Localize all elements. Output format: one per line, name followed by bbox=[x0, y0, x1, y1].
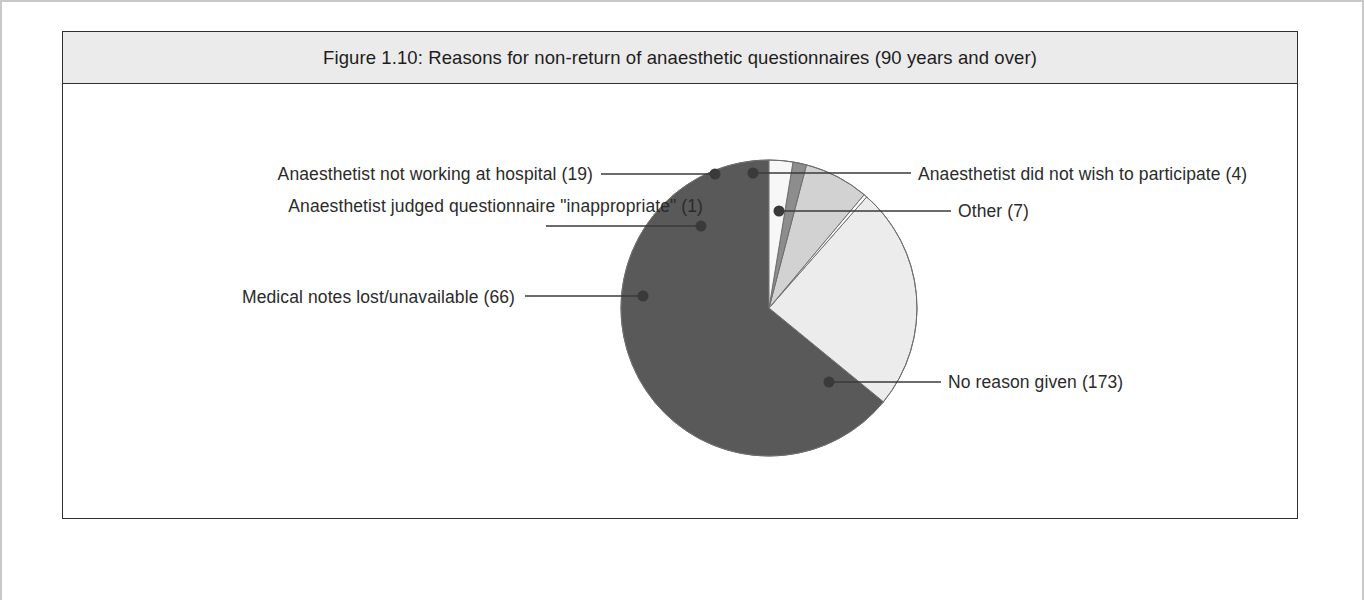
page-edge-left bbox=[0, 0, 2, 600]
pie-chart-plot-area: No reason given (173)Medical notes lost/… bbox=[63, 84, 1297, 519]
leader-dot bbox=[710, 169, 721, 180]
leader-dot bbox=[774, 206, 785, 217]
leader-dot bbox=[638, 291, 649, 302]
pie-slice-label: Other (7) bbox=[958, 203, 1029, 221]
pie-slice-label: No reason given (173) bbox=[948, 374, 1123, 392]
leader-dot bbox=[696, 221, 707, 232]
figure-container: Figure 1.10: Reasons for non-return of a… bbox=[62, 31, 1298, 519]
pie-slice-label: Medical notes lost/unavailable (66) bbox=[63, 289, 515, 307]
pie-slice-label: Anaesthetist judged questionnaire "inapp… bbox=[63, 198, 703, 216]
pie-slice-label: Anaesthetist did not wish to participate… bbox=[918, 166, 1247, 184]
page-edge-top bbox=[0, 0, 1364, 2]
pie-slice-label: Anaesthetist not working at hospital (19… bbox=[63, 166, 593, 184]
figure-title: Figure 1.10: Reasons for non-return of a… bbox=[323, 47, 1037, 69]
leader-dot bbox=[824, 377, 835, 388]
leader-dot bbox=[748, 168, 759, 179]
figure-title-bar: Figure 1.10: Reasons for non-return of a… bbox=[63, 32, 1297, 84]
